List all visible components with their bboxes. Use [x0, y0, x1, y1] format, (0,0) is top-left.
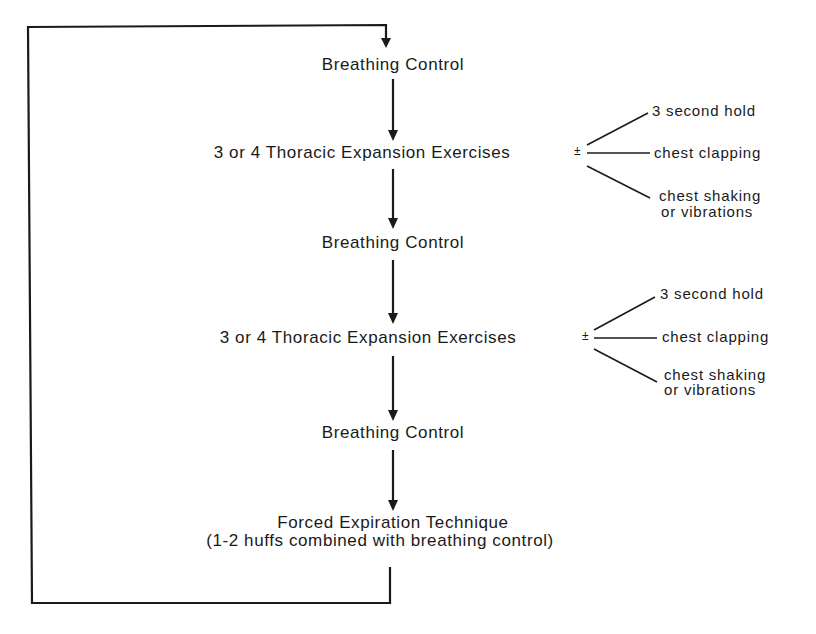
- option-vibrations-2: or vibrations: [664, 382, 756, 398]
- step-breathing-control-3: Breathing Control: [322, 423, 465, 443]
- option-chest-clapping-1: chest clapping: [654, 145, 761, 161]
- option-vibrations-1: or vibrations: [661, 204, 753, 220]
- option-3-second-hold-1: 3 second hold: [652, 103, 756, 119]
- step-thoracic-expansion-2: 3 or 4 Thoracic Expansion Exercises: [220, 328, 517, 348]
- step-breathing-control-1: Breathing Control: [322, 55, 465, 75]
- option-chest-clapping-2: chest clapping: [662, 329, 769, 345]
- step-forced-expiration-detail: (1-2 huffs combined with breathing contr…: [206, 531, 554, 551]
- option-3-second-hold-2: 3 second hold: [660, 286, 764, 302]
- step-forced-expiration-technique: Forced Expiration Technique: [277, 513, 508, 533]
- step-thoracic-expansion-1: 3 or 4 Thoracic Expansion Exercises: [214, 143, 511, 163]
- option-chest-shaking-1: chest shaking: [659, 188, 761, 204]
- plus-minus-icon-1: ±: [574, 145, 581, 157]
- step-breathing-control-2: Breathing Control: [322, 233, 465, 253]
- plus-minus-icon-2: ±: [582, 330, 589, 342]
